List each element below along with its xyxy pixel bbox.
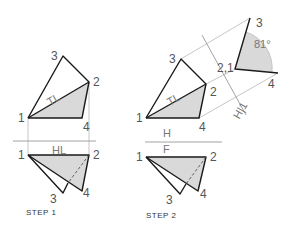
label-1-top: 1 [136,111,143,125]
label-3-top: 3 [169,52,176,66]
label-dihedral-angle: 81° [254,38,271,50]
label-4-top: 4 [83,120,90,134]
label-1-front: 1 [136,150,143,164]
label-hl: HL [52,144,66,156]
step2-group: 3 2 1 4 TL H F 1 2 3 4 2,1 3 4 81° H|1 S… [136,16,278,220]
label-3-front: 3 [50,192,57,206]
step2-top-view [146,59,206,118]
label-1-front: 1 [18,148,25,162]
label-3-aux: 3 [256,16,263,30]
label-1-top: 1 [18,111,25,125]
dihedral-angle-diagram: 3 2 1 4 TL HL 1 2 3 4 STEP 1 [0,0,291,231]
label-4-front: 4 [83,186,90,200]
caption-step2: STEP 2 [146,211,176,220]
step1-top-view [28,56,89,118]
label-2-1-aux: 2,1 [217,61,234,75]
label-2-top: 2 [210,85,217,99]
label-2-front: 2 [210,150,217,164]
label-h-1: H|1 [231,100,250,121]
label-3-front: 3 [166,193,173,207]
label-4-front: 4 [200,187,207,201]
label-4-aux: 4 [268,77,275,91]
step1-group: 3 2 1 4 TL HL 1 2 3 4 STEP 1 [13,49,100,217]
label-f: F [163,143,170,155]
label-3-top: 3 [51,49,58,63]
caption-step1: STEP 1 [26,208,56,217]
label-2-front: 2 [93,148,100,162]
step2-front-view [146,157,206,194]
label-h: H [163,127,171,139]
label-4-top: 4 [199,120,206,134]
step1-front-view [28,155,89,193]
label-2-top: 2 [93,75,100,89]
